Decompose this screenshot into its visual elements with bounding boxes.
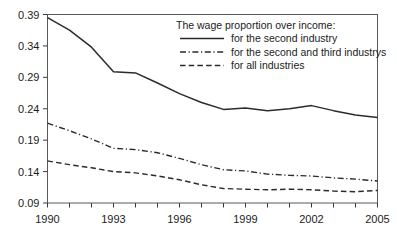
y-tick-label: 0.19 xyxy=(18,134,39,146)
x-tick-label: 2002 xyxy=(299,213,323,225)
legend-entry-label: for the second and third industrys xyxy=(231,46,386,58)
x-tick-label: 1993 xyxy=(101,213,125,225)
legend-entry-label: for all industries xyxy=(231,59,305,71)
x-tick-label: 1990 xyxy=(35,213,59,225)
x-tick-label: 1999 xyxy=(233,213,257,225)
y-tick-label: 0.14 xyxy=(18,166,39,178)
chart-container: 0.090.140.190.240.290.340.39 19901993199… xyxy=(0,0,397,242)
y-tick-label: 0.39 xyxy=(18,9,39,21)
legend-entry-label: for the second industry xyxy=(231,32,338,44)
x-tick-label: 1996 xyxy=(167,213,191,225)
y-tick-label: 0.24 xyxy=(18,103,39,115)
legend-title: The wage proportion over income: xyxy=(176,19,335,31)
y-tick-label: 0.29 xyxy=(18,71,39,83)
chart-legend: The wage proportion over income: for the… xyxy=(168,16,386,71)
x-tick-label: 2005 xyxy=(365,213,389,225)
line-chart: 0.090.140.190.240.290.340.39 19901993199… xyxy=(0,0,397,242)
y-tick-label: 0.34 xyxy=(18,40,39,52)
y-tick-label: 0.09 xyxy=(18,197,39,209)
